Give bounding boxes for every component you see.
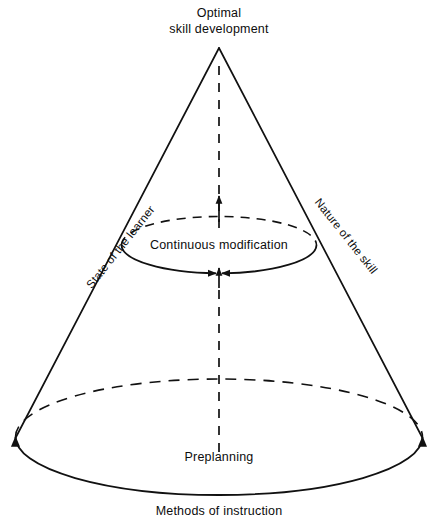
apex-label-line2: skill development [0, 21, 438, 37]
methods-of-instruction-label: Methods of instruction [0, 504, 438, 518]
apex-label: Optimal skill development [0, 5, 438, 37]
cone-diagram: Optimal skill development Continuous mod… [0, 0, 438, 526]
apex-label-line1: Optimal [0, 5, 438, 21]
mid-ellipse-label: Continuous modification [0, 238, 438, 252]
preplanning-label: Preplanning [0, 450, 438, 464]
